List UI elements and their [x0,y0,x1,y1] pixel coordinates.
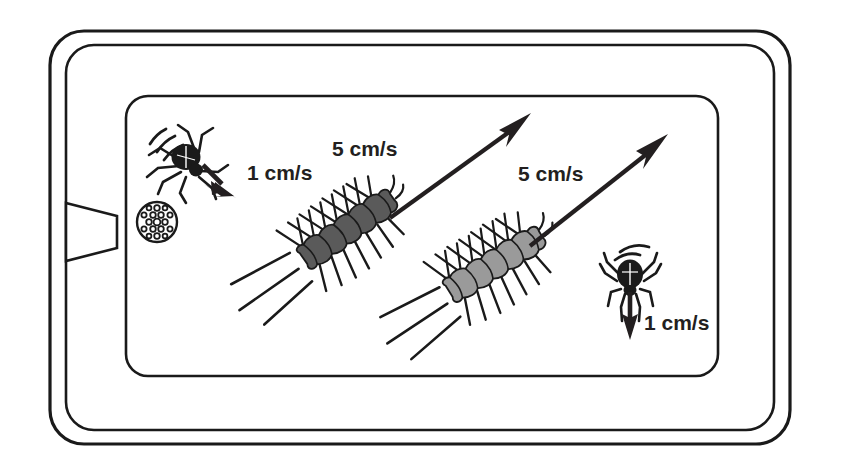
diagram-svg: 1 cm/s [0,0,842,469]
arrow-caterpillar-right [530,134,668,246]
arrow-caterpillar-left [390,113,531,218]
spider-bottom-right-motion-arcs [615,245,649,260]
spider-head [189,164,203,177]
funnel-nozzle [66,203,117,261]
mesh-disc [137,202,177,242]
arrowhead-caterpillar-right [636,134,668,169]
figure-canvas: 1 cm/s [0,0,842,469]
label-caterpillar-left-speed: 5 cm/s [332,137,397,160]
label-caterpillar-right-speed: 5 cm/s [518,162,583,185]
label-spider-bottom-right-speed: 1 cm/s [644,311,709,334]
arrowhead-caterpillar-left [499,113,531,147]
label-spider-top-left-speed: 1 cm/s [247,161,312,184]
frame-middle [66,45,774,430]
caterpillar-right [361,193,579,372]
